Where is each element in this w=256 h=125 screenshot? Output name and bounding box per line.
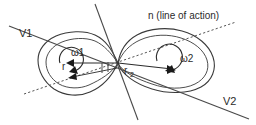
right-body-outline <box>118 29 214 93</box>
line-of-action-dotted <box>24 22 236 94</box>
label-omega1: ω1 <box>71 47 85 58</box>
label-omega2: ω2 <box>180 53 194 64</box>
r1-arrowhead <box>66 59 74 67</box>
label-r1: r <box>62 61 66 72</box>
label-r2-base: r <box>124 65 128 76</box>
label-line-of-action: n (line of action) <box>148 10 219 21</box>
right-body-inner-contour <box>118 35 208 88</box>
omega2-arc <box>156 44 182 70</box>
r1-secondary-arrowhead <box>68 73 77 80</box>
mechanics-contact-diagram: V1 V2 n (line of action) ω1 ω2 r r 2 <box>0 0 256 125</box>
figure-container: V1 V2 n (line of action) ω1 ω2 r r 2 <box>0 0 256 125</box>
label-v2: V2 <box>223 95 236 107</box>
label-r2-subscript: 2 <box>130 71 134 78</box>
label-v1: V1 <box>19 27 32 39</box>
label-r2-group: r 2 <box>124 65 134 78</box>
